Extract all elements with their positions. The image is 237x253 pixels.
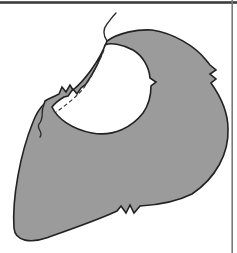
frame-right-rule: [231, 0, 233, 253]
sewing-illustration: [0, 0, 237, 253]
frame-top-rule: [0, 1, 237, 4]
illustration-frame: [0, 0, 237, 253]
